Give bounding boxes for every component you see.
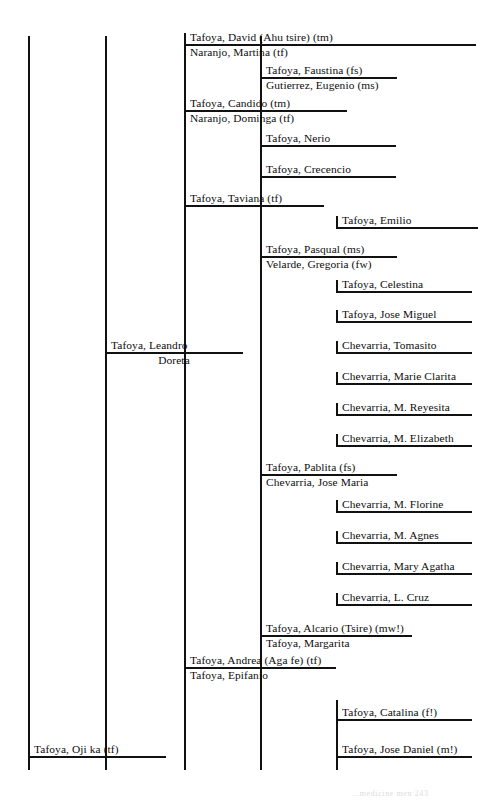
genealogy-chart: Tafoya, David (Ahu tsire) (tm)Naranjo, M… bbox=[0, 0, 498, 808]
union-line-p23 bbox=[336, 719, 472, 721]
person-name: Tafoya, Jose Daniel (m!) bbox=[342, 743, 457, 755]
union-line-p12 bbox=[336, 352, 472, 354]
person-name: Chevarria, M. Reyesita bbox=[342, 401, 450, 413]
person-name: Tafoya, Jose Miguel bbox=[342, 308, 436, 320]
person-name: Tafoya, Celestina bbox=[342, 278, 423, 290]
spouse-name: Naranjo, Dominga (tf) bbox=[190, 112, 294, 124]
page-footer-note: ...medicine men 243 bbox=[352, 789, 429, 798]
person-name: Chevarria, M. Agnes bbox=[342, 529, 439, 541]
union-line-p25 bbox=[28, 756, 166, 758]
person-name: Chevarria, M. Florine bbox=[342, 498, 443, 510]
person-name: Tafoya, Alcario (Tsire) (mw!) bbox=[266, 622, 404, 634]
union-line-p4 bbox=[260, 145, 396, 147]
person-name: Tafoya, Nerio bbox=[266, 132, 330, 144]
union-line-p18 bbox=[336, 542, 472, 544]
person-name: Chevarria, Marie Clarita bbox=[342, 370, 456, 382]
union-line-p19 bbox=[336, 573, 472, 575]
union-line-p17 bbox=[336, 511, 472, 513]
person-name: Tafoya, Taviana (tf) bbox=[190, 192, 282, 204]
person-name: Tafoya, Leandro bbox=[111, 339, 188, 351]
person-name: Tafoya, Andrea (Aga fe) (tf) bbox=[190, 654, 321, 666]
spouse-name: Gutierrez, Eugenio (ms) bbox=[266, 79, 379, 91]
union-line-p6 bbox=[184, 205, 324, 207]
union-line-p14 bbox=[336, 414, 472, 416]
person-name: Tafoya, Emilio bbox=[342, 214, 412, 226]
spouse-name: Chevarria, Jose Maria bbox=[266, 476, 368, 488]
person-name: Tafoya, Pablita (fs) bbox=[266, 461, 355, 473]
person-name: Tafoya, Candido (tm) bbox=[190, 97, 290, 109]
union-line-p9 bbox=[336, 291, 472, 293]
union-line-p5 bbox=[260, 176, 396, 178]
person-name: Chevarria, M. Elizabeth bbox=[342, 432, 454, 444]
person-name: Tafoya, Crecencio bbox=[266, 163, 351, 175]
spouse-name: Tafoya, Margarita bbox=[266, 637, 350, 649]
union-line-p13 bbox=[336, 383, 472, 385]
person-name: Tafoya, David (Ahu tsire) (tm) bbox=[190, 31, 333, 43]
person-name: Tafoya, Faustina (fs) bbox=[266, 64, 363, 76]
person-name: Chevarria, Mary Agatha bbox=[342, 560, 455, 572]
generation-spine-1 bbox=[28, 36, 30, 770]
person-name: Tafoya, Oji ka (tf) bbox=[34, 743, 119, 755]
union-line-p24 bbox=[336, 756, 472, 758]
spouse-name: Tafoya, Epifanio bbox=[190, 669, 268, 681]
union-line-p10 bbox=[336, 321, 472, 323]
spouse-name: Velarde, Gregoria (fw) bbox=[266, 258, 372, 270]
union-line-p7 bbox=[336, 227, 478, 229]
generation-spine-2 bbox=[105, 36, 107, 770]
union-line-p20 bbox=[336, 604, 472, 606]
person-name: Tafoya, Pasqual (ms) bbox=[266, 243, 364, 255]
person-name: Chevarria, L. Cruz bbox=[342, 591, 429, 603]
person-name: Tafoya, Catalina (f!) bbox=[342, 706, 437, 718]
spouse-name: Doreta bbox=[105, 354, 243, 366]
person-name: Chevarria, Tomasito bbox=[342, 339, 437, 351]
spouse-name: Naranjo, Martina (tf) bbox=[190, 46, 288, 58]
union-line-p15 bbox=[336, 445, 472, 447]
